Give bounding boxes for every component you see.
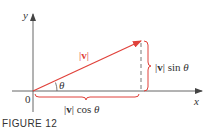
figure-caption: FIGURE 12 — [2, 119, 57, 129]
angle-label: θ — [59, 80, 64, 91]
origin-label: 0 — [25, 94, 31, 105]
horizontal-component-label: |v| cos θ — [64, 104, 99, 115]
vertical-component-label: |v| sin θ — [155, 62, 189, 73]
angle-variable: θ — [183, 61, 188, 73]
vertical-component-brace — [144, 41, 151, 91]
abs-bar-right: | — [163, 61, 165, 73]
trig-function: sin — [168, 61, 181, 73]
vector-magnitude-label: |v| — [79, 50, 89, 61]
y-axis-label: y — [23, 10, 28, 21]
angle-arc — [56, 83, 58, 92]
x-axis-label: x — [194, 96, 199, 107]
angle-variable: θ — [94, 103, 99, 115]
abs-bar-right: | — [72, 103, 74, 115]
abs-bar-right: | — [87, 49, 89, 61]
trig-function: cos — [77, 103, 92, 115]
horizontal-component-brace — [35, 94, 139, 100]
